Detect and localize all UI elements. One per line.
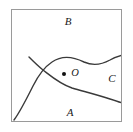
- region-label-a: A: [66, 106, 74, 118]
- region-label-b: B: [65, 15, 72, 27]
- region-label-c: C: [108, 72, 116, 84]
- figure-container: O B C A: [0, 0, 133, 132]
- point-o-label: O: [71, 67, 79, 78]
- region-diagram: O B C A: [0, 0, 133, 132]
- point-o-dot: [62, 72, 66, 76]
